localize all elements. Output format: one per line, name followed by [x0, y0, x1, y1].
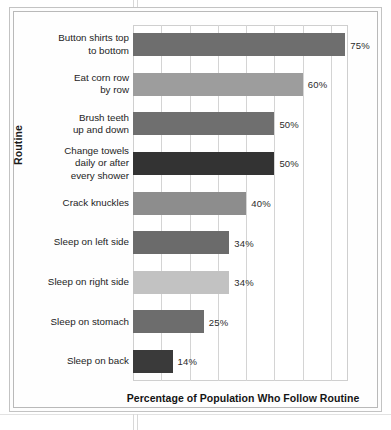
bar-chart: Routine Button shirts top to bottomEat c…: [0, 0, 391, 430]
bar-row: 34%: [133, 271, 348, 294]
y-axis-tick-label: Button shirts top to bottom: [9, 32, 129, 57]
bar-value-label: 34%: [234, 237, 254, 248]
y-axis-tick-labels: Button shirts top to bottomEat corn row …: [5, 25, 129, 381]
bar: [133, 73, 303, 96]
bar: [133, 271, 229, 294]
bar-value-label: 50%: [279, 158, 299, 169]
bar-row: 50%: [133, 152, 348, 175]
page-edge-line: [0, 414, 391, 415]
bar: [133, 112, 274, 135]
y-axis-tick-label: Crack knuckles: [9, 197, 129, 209]
bar-row: 14%: [133, 350, 348, 373]
bar: [133, 231, 229, 254]
bar-value-label: 25%: [209, 316, 229, 327]
y-axis-tick-label: Sleep on left side: [9, 236, 129, 248]
plot-area: 75%60%50%50%40%34%34%25%14%: [133, 25, 348, 381]
bar: [133, 350, 173, 373]
bar: [133, 152, 274, 175]
bar-value-label: 34%: [234, 277, 254, 288]
y-axis-tick-label: Change towels daily or after every showe…: [9, 145, 129, 182]
page-seam-mark: [137, 414, 138, 430]
bar: [133, 33, 345, 56]
bar: [133, 310, 204, 333]
x-axis-title: Percentage of Population Who Follow Rout…: [113, 392, 373, 404]
y-axis-tick-label: Eat corn row by row: [9, 72, 129, 97]
bar-row: 25%: [133, 310, 348, 333]
y-axis-tick-label: Brush teeth up and down: [9, 112, 129, 137]
bar-row: 50%: [133, 112, 348, 135]
page-seam-mark: [133, 414, 134, 430]
bar-row: 40%: [133, 192, 348, 215]
bar-value-label: 60%: [308, 79, 328, 90]
bar-row: 34%: [133, 231, 348, 254]
y-axis-tick-label: Sleep on stomach: [9, 316, 129, 328]
bar-value-label: 14%: [178, 356, 198, 367]
bar-series: 75%60%50%50%40%34%34%25%14%: [133, 25, 348, 381]
bar: [133, 192, 246, 215]
bar-value-label: 40%: [251, 198, 271, 209]
bar-value-label: 75%: [350, 39, 370, 50]
bar-value-label: 50%: [279, 118, 299, 129]
y-axis-tick-label: Sleep on right side: [9, 276, 129, 288]
bar-row: 60%: [133, 73, 348, 96]
y-axis-tick-label: Sleep on back: [9, 355, 129, 367]
bar-row: 75%: [133, 33, 348, 56]
